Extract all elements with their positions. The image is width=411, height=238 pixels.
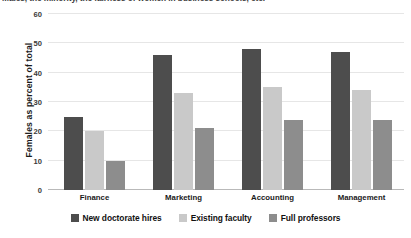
y-tick-label-30: 30 (34, 98, 42, 107)
chart-title: Males, the minority, the fairness of wom… (2, 0, 411, 3)
legend-swatch-icon (71, 214, 79, 222)
legend-label: New doctorate hires (83, 213, 162, 223)
bar (64, 117, 83, 190)
bar (195, 128, 214, 190)
x-tick-label: Management (312, 193, 411, 202)
bar (85, 131, 104, 190)
bar-group: Management (331, 14, 392, 190)
bar (284, 120, 303, 190)
bar (242, 49, 261, 190)
bar (153, 55, 172, 190)
bar (174, 93, 193, 190)
chart-legend: New doctorate hiresExisting facultyFull … (0, 213, 411, 223)
legend-item[interactable]: Full professors (269, 213, 341, 223)
x-tick-label: Finance (45, 193, 145, 202)
plot-area: 0102030405060 FinanceMarketingAccounting… (48, 14, 404, 190)
bar-chart-figure: Males, the minority, the fairness of wom… (0, 0, 411, 238)
legend-item[interactable]: New doctorate hires (71, 213, 162, 223)
x-tick-label: Marketing (134, 193, 234, 202)
y-tick-label-20: 20 (34, 127, 42, 136)
bar (373, 120, 392, 190)
chart-title-clipped: Males, the minority, the fairness of wom… (0, 0, 411, 9)
bar (106, 161, 125, 190)
bar-group: Finance (64, 14, 125, 190)
y-tick-label-50: 50 (34, 39, 42, 48)
y-tick-label-10: 10 (34, 156, 42, 165)
legend-swatch-icon (269, 214, 277, 222)
bar-group: Accounting (242, 14, 303, 190)
y-axis-title: Females as percent of total (24, 25, 34, 175)
bar-group: Marketing (153, 14, 214, 190)
legend-item[interactable]: Existing faculty (179, 213, 252, 223)
bar (352, 90, 371, 190)
y-tick-label-60: 60 (34, 10, 42, 19)
legend-swatch-icon (179, 214, 187, 222)
x-tick-label: Accounting (223, 193, 323, 202)
legend-label: Existing faculty (191, 213, 252, 223)
bar (263, 87, 282, 190)
legend-label: Full professors (281, 213, 341, 223)
y-tick-label-0: 0 (38, 186, 42, 195)
bar (331, 52, 350, 190)
y-tick-label-40: 40 (34, 68, 42, 77)
